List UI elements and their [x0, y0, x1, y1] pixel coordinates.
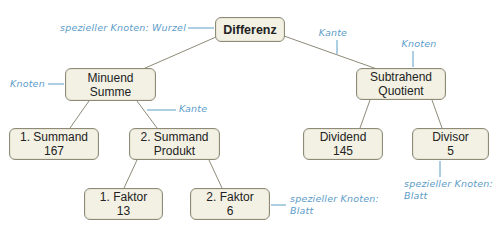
- annotation-edge-left: Kante: [179, 103, 207, 115]
- edge-summand2-faktor1: [124, 160, 137, 188]
- node-value: Summe: [90, 85, 131, 99]
- node-summand-2: 2. Summand Produkt: [129, 128, 220, 160]
- edge-summand2-faktor2: [209, 160, 222, 188]
- edge-root-minuend: [143, 37, 216, 69]
- node-label: Divisor: [432, 130, 469, 144]
- node-label: Differenz: [223, 23, 276, 37]
- edge-subtrahend-divisor: [432, 100, 442, 128]
- annotation-node-right: Knoten: [402, 38, 437, 50]
- node-label: 2. Summand: [140, 130, 208, 144]
- edge-minuend-summand2: [137, 101, 157, 128]
- node-value: Produkt: [154, 144, 195, 158]
- node-minuend: Minuend Summe: [65, 68, 156, 101]
- node-summand-1: 1. Summand 167: [9, 128, 99, 160]
- node-label: Dividend: [320, 130, 367, 144]
- annotation-edge-right: Kante: [319, 27, 347, 39]
- annotation-node-left: Knoten: [10, 78, 45, 90]
- node-faktor-2: 2. Faktor 6: [190, 188, 270, 220]
- node-label: Minuend: [87, 71, 133, 85]
- node-value: Quotient: [378, 84, 423, 98]
- node-value: 6: [227, 204, 234, 218]
- annotation-root: spezieller Knoten: Wurzel: [60, 22, 186, 34]
- node-label: 1. Faktor: [100, 190, 147, 204]
- node-label: 1. Summand: [20, 130, 88, 144]
- edge-root-subtrahend: [284, 36, 377, 69]
- node-value: 13: [117, 204, 130, 218]
- annotation-leaf-right: spezieller Knoten: Blatt: [404, 178, 493, 202]
- annotation-line: Blatt: [404, 190, 493, 202]
- annotation-line: spezieller Knoten:: [290, 193, 379, 205]
- edge-subtrahend-dividend: [360, 100, 370, 128]
- node-root-differenz: Differenz: [215, 17, 285, 42]
- node-faktor-1: 1. Faktor 13: [84, 188, 163, 220]
- node-label: 2. Faktor: [206, 190, 253, 204]
- node-value: 167: [44, 144, 64, 158]
- node-label: Subtrahend: [370, 70, 432, 84]
- node-dividend: Dividend 145: [303, 128, 383, 160]
- node-subtrahend: Subtrahend Quotient: [356, 68, 446, 100]
- node-divisor: Divisor 5: [412, 128, 489, 160]
- annotation-line: Blatt: [290, 205, 379, 217]
- annotation-leaf-mid: spezieller Knoten: Blatt: [290, 193, 379, 217]
- node-value: 5: [447, 144, 454, 158]
- node-value: 145: [333, 144, 353, 158]
- edge-minuend-summand1: [70, 101, 89, 128]
- annotation-line: spezieller Knoten:: [404, 178, 493, 190]
